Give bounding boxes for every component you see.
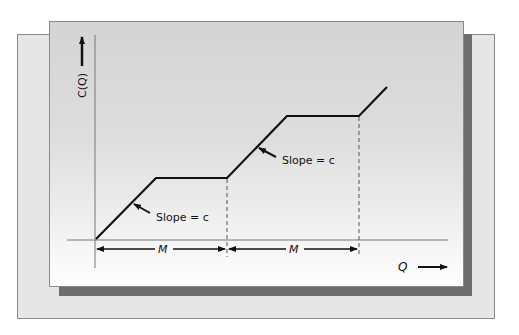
slope-label-2: Slope = c <box>282 154 335 167</box>
cost-function-diagram: C(Q) Q Slope = c Slope = c M M <box>0 0 519 335</box>
slope-pointer-2 <box>259 148 276 157</box>
x-axis-label: Q <box>398 260 407 274</box>
slope-label-1: Slope = c <box>156 211 209 224</box>
cost-curve <box>96 87 387 239</box>
interval-label-1: M <box>158 243 168 256</box>
interval-label-2: M <box>289 243 299 256</box>
y-axis-label: C(Q) <box>76 73 89 98</box>
slope-pointer-1 <box>134 204 150 213</box>
